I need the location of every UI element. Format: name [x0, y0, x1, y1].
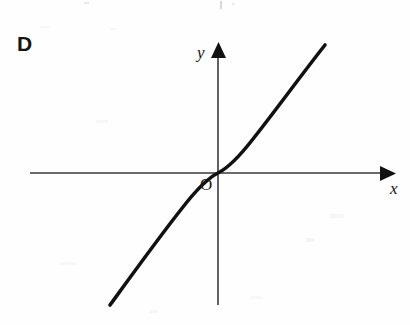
origin-label: O — [200, 176, 212, 193]
figure-screenshot: D y x O — [0, 0, 410, 325]
x-axis-label: x — [390, 180, 398, 197]
y-axis-label: y — [197, 44, 205, 61]
cubic-graph-figure — [0, 0, 410, 325]
y-axis-arrowhead — [211, 42, 226, 58]
